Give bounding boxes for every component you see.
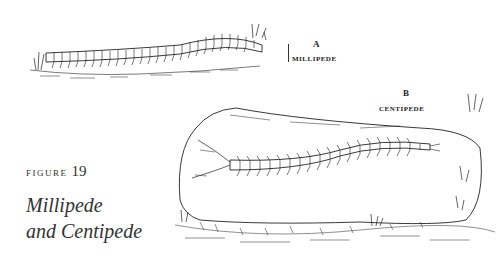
millipede-drawing [30,24,266,78]
label-millipede: MILLIPEDE [292,55,337,63]
figure-number: FIGURE19 [26,163,87,180]
label-letter-a: A [313,39,320,49]
label-letter-b: B [403,88,409,98]
figure-prefix: FIGURE [26,168,68,178]
label-centipede: CENTIPEDE [379,105,424,113]
centipede-drawing [175,94,495,242]
figure-caption: Millipede and Centipede [26,192,142,244]
label-rule [288,44,289,62]
caption-line-2: and Centipede [26,218,142,244]
caption-line-1: Millipede [26,192,142,218]
figure-number-value: 19 [72,163,87,179]
